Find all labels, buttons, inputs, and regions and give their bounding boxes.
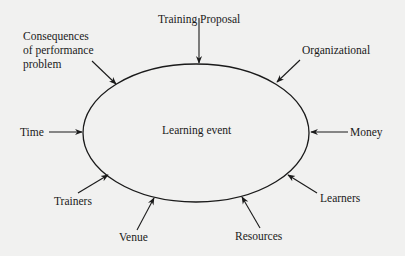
- arrow-consequences: [92, 61, 116, 84]
- arrow-resources: [242, 197, 260, 228]
- arrow-venue: [137, 198, 154, 230]
- center-label-learning-event: Learning event: [162, 124, 231, 136]
- label-consequences-line1: Consequences: [23, 30, 89, 43]
- arrow-learners: [288, 175, 317, 193]
- label-money: Money: [350, 126, 383, 139]
- arrow-organizational: [277, 60, 300, 82]
- label-resources: Resources: [235, 230, 282, 243]
- label-organizational: Organizational: [302, 44, 370, 57]
- label-consequences-line3: problem: [23, 58, 61, 71]
- label-learners: Learners: [320, 192, 360, 205]
- label-time: Time: [20, 126, 44, 139]
- label-consequences-line2: of performance: [23, 44, 94, 57]
- diagram-canvas: Learning event Training Proposal Organiz…: [0, 0, 405, 256]
- label-venue: Venue: [119, 231, 148, 244]
- label-trainers: Trainers: [54, 195, 92, 208]
- arrow-trainers: [78, 175, 108, 193]
- label-training-proposal: Training Proposal: [158, 13, 240, 26]
